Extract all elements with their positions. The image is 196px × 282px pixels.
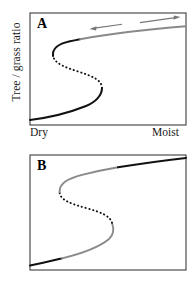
- panel-b-plot: [0, 0, 196, 282]
- x-axis-label-dry: Dry: [30, 126, 48, 138]
- panel-b-frame: [30, 155, 186, 270]
- panel-a-letter: A: [37, 16, 47, 32]
- panel-b-letter: B: [37, 158, 46, 174]
- y-axis-label: Tree / grass ratio: [10, 2, 22, 122]
- figure-root: Tree / grass ratio Dry Moist A B: [0, 0, 196, 282]
- x-axis-label-moist: Moist: [152, 126, 179, 138]
